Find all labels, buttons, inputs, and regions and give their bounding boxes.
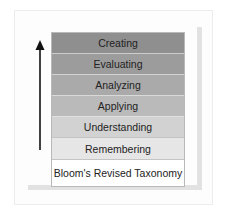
level-label: Remembering (85, 143, 151, 155)
taxonomy-stack: Creating Evaluating Analyzing Applying U… (51, 32, 185, 187)
level-label: Evaluating (93, 58, 142, 70)
level-remembering: Remembering (52, 138, 184, 159)
level-label: Creating (98, 37, 138, 49)
level-label: Applying (98, 100, 138, 112)
level-applying: Applying (52, 96, 184, 117)
level-understanding: Understanding (52, 117, 184, 138)
level-evaluating: Evaluating (52, 54, 184, 75)
frame-shadow-right (197, 27, 202, 189)
level-creating: Creating (52, 33, 184, 54)
base-label: Bloom's Revised Taxonomy (54, 167, 182, 179)
taxonomy-title: Bloom's Revised Taxonomy (52, 159, 184, 186)
level-label: Analyzing (95, 79, 141, 91)
level-analyzing: Analyzing (52, 75, 184, 96)
arrow-up-icon (34, 40, 46, 152)
level-label: Understanding (84, 121, 152, 133)
